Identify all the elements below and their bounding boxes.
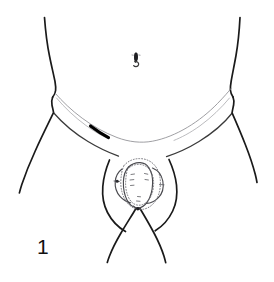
- left-hip-kink: [52, 97, 54, 113]
- genital-stipple-border-outer: [121, 159, 161, 210]
- genital-base-node: [136, 207, 139, 210]
- genital-hatch-mark-1: [131, 174, 135, 175]
- left-flank-contour: [45, 18, 56, 98]
- genital-hatch-mark-4: [145, 174, 148, 175]
- left-inner-thigh-contour: [103, 160, 126, 232]
- right-flank-contour: [230, 18, 240, 98]
- figure-canvas: 1: [0, 0, 274, 282]
- genital-hatch-mark-5: [145, 180, 148, 181]
- left-outer-thigh-contour: [19, 113, 53, 192]
- left-inguinal-crease: [54, 113, 119, 156]
- genital-stipple-border-inner: [126, 164, 154, 205]
- figure-number-label: 1: [37, 236, 49, 257]
- left-leg-inner-edge: [107, 209, 136, 263]
- right-leg-inner-edge: [140, 209, 166, 263]
- right-hip-kink: [232, 97, 234, 113]
- genital-central-outline: [123, 167, 152, 208]
- abdominal-fold: [55, 89, 231, 143]
- incision-mark: [91, 126, 109, 138]
- right-outer-thigh-contour: [232, 113, 257, 182]
- genital-top-arch: [129, 163, 149, 168]
- right-inguinal-crease-upper: [174, 98, 230, 140]
- genital-node-left: [116, 180, 119, 183]
- navel-icon: [134, 53, 138, 62]
